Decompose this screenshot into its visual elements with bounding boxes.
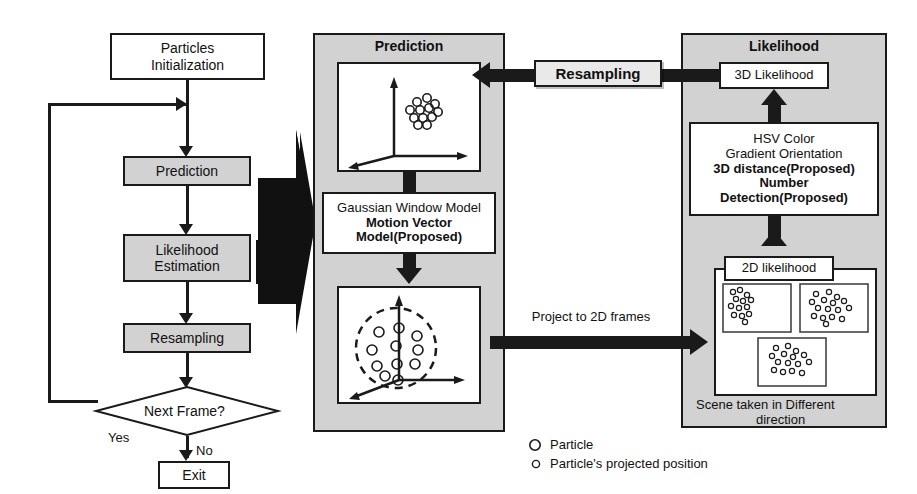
edge-loop-horizontal-bottom — [48, 400, 98, 403]
likelihood-2d-title-box: 2D likelihood — [724, 256, 834, 281]
likelihood-2d-title-label: 2D likelihood — [742, 261, 816, 276]
flow-node-next-frame-label: Next Frame? — [144, 403, 225, 419]
arrowhead-2d-to-features — [761, 230, 787, 246]
likelihood-2d-caption-line2: direction — [756, 412, 805, 427]
arrowhead-to-exit — [179, 450, 193, 461]
3d-axes-particles-before — [339, 64, 479, 170]
big-block-arrow-icon — [248, 128, 320, 338]
flow-node-exit-label: Exit — [182, 467, 205, 483]
likelihood-3d-label: 3D Likelihood — [735, 68, 814, 83]
edge-label-yes: Yes — [108, 430, 129, 445]
likelihood-2d-caption-line1: Scene taken in Different — [696, 397, 835, 412]
arrowhead-loop-join — [176, 97, 187, 111]
project-arrow-label: Project to 2D frames — [532, 310, 651, 325]
arrowhead-resampling — [472, 62, 490, 88]
likelihood-2d-views — [716, 270, 875, 394]
flow-node-resampling[interactable]: Resampling — [123, 323, 251, 353]
legend-marker-projected-icon — [530, 458, 542, 470]
likelihood-feature-line5: Detection(Proposed) — [713, 191, 855, 206]
prediction-model-line3: Model(Proposed) — [337, 230, 481, 245]
resampling-arrow-label: Resampling — [555, 65, 640, 82]
legend-marker-particle-icon — [528, 438, 542, 452]
3d-axes-particles-after — [339, 288, 479, 402]
project-label-box: Project to 2D frames — [500, 302, 682, 332]
likelihood-panel-title: Likelihood — [681, 38, 887, 54]
flow-node-prediction[interactable]: Prediction — [123, 156, 251, 186]
edge-init-to-prediction — [186, 80, 189, 151]
flow-node-particles-initialization-line2: Initialization — [151, 57, 224, 73]
flow-node-likelihood-estimation-line2: Estimation — [154, 258, 219, 274]
legend-label-particle: Particle — [550, 437, 593, 452]
edge-prediction-to-likelihood — [186, 186, 189, 229]
prediction-model-box: Gaussian Window Model Motion Vector Mode… — [322, 192, 496, 254]
arrowhead-project — [690, 329, 708, 355]
arrowhead-features-to-3d — [761, 89, 787, 105]
edge-loop-vertical — [48, 103, 51, 403]
flow-node-resampling-label: Resampling — [150, 330, 224, 346]
prediction-model-line2: Motion Vector — [337, 216, 481, 231]
flow-node-exit[interactable]: Exit — [158, 461, 230, 489]
edge-loop-horizontal-top — [48, 103, 188, 106]
flow-node-particles-initialization[interactable]: Particles Initialization — [110, 33, 265, 80]
flow-node-particles-initialization-line1: Particles — [151, 40, 224, 56]
likelihood-3d-box: 3D Likelihood — [719, 62, 829, 89]
diagram-canvas: Particles Initialization Prediction Like… — [0, 0, 917, 494]
flow-node-likelihood-estimation-line1: Likelihood — [154, 242, 219, 258]
flow-node-prediction-label: Prediction — [156, 163, 218, 179]
connector-features-to-3d — [768, 105, 781, 123]
flow-node-likelihood-estimation[interactable]: Likelihood Estimation — [123, 234, 251, 282]
likelihood-feature-line4: Number — [713, 176, 855, 191]
prediction-panel-title: Prediction — [313, 38, 505, 54]
edge-label-no: No — [196, 443, 213, 458]
arrowhead-model-to-plot — [396, 268, 422, 284]
likelihood-feature-line3: 3D distance(Proposed) — [713, 162, 855, 177]
legend-label-projected: Particle's projected position — [550, 456, 708, 471]
connector-plot-to-model — [403, 172, 416, 192]
likelihood-features-box: HSV Color Gradient Orientation 3D distan… — [689, 122, 879, 216]
resampling-line-right — [660, 69, 720, 82]
likelihood-feature-line2: Gradient Orientation — [713, 147, 855, 162]
likelihood-feature-line1: HSV Color — [713, 132, 855, 147]
prediction-model-line1: Gaussian Window Model — [337, 201, 481, 216]
project-arrow-line — [490, 336, 690, 349]
resampling-line-left — [490, 69, 537, 82]
resampling-arrow-label-box: Resampling — [534, 60, 662, 87]
